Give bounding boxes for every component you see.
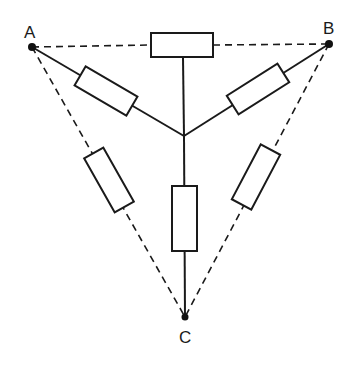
- resistor-a-center: [75, 66, 138, 115]
- resistor-a-c: [84, 148, 134, 213]
- node-a: [28, 43, 36, 51]
- resistors: [75, 33, 290, 251]
- resistor-top: [151, 33, 213, 57]
- circuit-diagram: A B C: [0, 0, 354, 365]
- node-c: [182, 314, 189, 321]
- node-b: [325, 40, 333, 48]
- dashed-wire-a-top: [32, 45, 151, 47]
- label-b: B: [323, 19, 334, 38]
- resistor-b-center: [227, 64, 289, 115]
- label-c: C: [179, 328, 191, 347]
- dashed-wire-top-b: [213, 44, 329, 45]
- resistor-center-c: [172, 186, 197, 251]
- label-a: A: [24, 23, 36, 42]
- resistor-b-c: [232, 144, 280, 209]
- wire-top-center: [183, 58, 184, 136]
